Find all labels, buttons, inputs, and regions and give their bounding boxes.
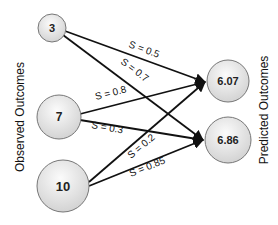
node-observed-7: 7 bbox=[37, 95, 81, 139]
edge-label-3-607: S = 0.5 bbox=[127, 39, 161, 60]
weighted-graph-diagram: S = 0.5 S = 0.7 S = 0.8 S = 0.3 S = 0.2 … bbox=[0, 0, 278, 225]
node-observed-3: 3 bbox=[38, 14, 66, 42]
node-predicted-607: 6.07 bbox=[207, 60, 249, 102]
edge-label-7-607: S = 0.8 bbox=[94, 83, 128, 102]
node-label: 10 bbox=[56, 179, 70, 194]
node-label: 3 bbox=[49, 22, 55, 34]
observed-outcomes-label: Observed Outcomes bbox=[13, 62, 27, 172]
edge-label-7-686: S = 0.3 bbox=[91, 119, 125, 135]
node-observed-10: 10 bbox=[37, 160, 89, 212]
predicted-nodes: 6.07 6.86 bbox=[205, 60, 251, 163]
edges bbox=[63, 31, 205, 186]
node-label: 7 bbox=[56, 110, 63, 124]
node-label: 6.86 bbox=[217, 134, 238, 146]
predicted-outcomes-label: Predicted Outcomes bbox=[257, 56, 271, 165]
node-label: 6.07 bbox=[217, 75, 238, 87]
node-predicted-686: 6.86 bbox=[205, 117, 251, 163]
